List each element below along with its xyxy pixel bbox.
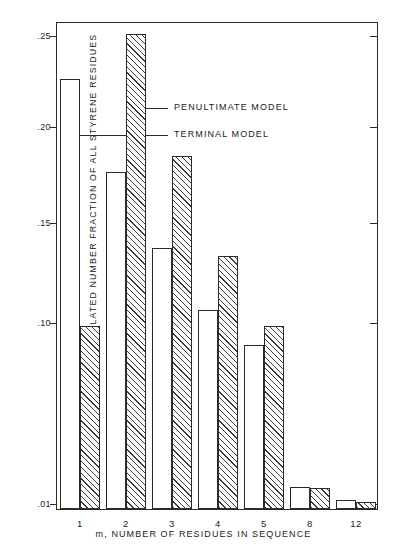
x-tick-label-1: 1 xyxy=(77,518,83,529)
y-tick-left-3 xyxy=(50,323,57,324)
y-tick-left-0 xyxy=(50,36,57,37)
y-tick-label-1: .20 xyxy=(23,122,51,132)
bar-penultimate-model-m5 xyxy=(264,326,284,509)
bar-penultimate-model-m3 xyxy=(172,156,192,509)
bar-penultimate-model-m12 xyxy=(356,502,376,509)
bar-terminal-model-m12 xyxy=(336,500,356,509)
y-tick-right-3 xyxy=(370,323,377,324)
x-tick-label-5: 5 xyxy=(261,518,267,529)
x-tick-label-3: 3 xyxy=(169,518,175,529)
plot-area: .25 .20 .15 .10 .01 12345812 PENULTIMATE… xyxy=(56,22,378,510)
y-tick-right-0 xyxy=(370,36,377,37)
bar-terminal-model-m2 xyxy=(106,172,126,509)
y-tick-label-2: .15 xyxy=(23,218,51,228)
x-tick-label-12: 12 xyxy=(350,518,362,529)
bar-penultimate-model-m8 xyxy=(310,488,330,509)
y-tick-left-1 xyxy=(50,127,57,128)
bar-terminal-model-m5 xyxy=(244,345,264,509)
penultimate-annotation-label: PENULTIMATE MODEL xyxy=(174,102,289,112)
y-tick-label-3: .10 xyxy=(23,318,51,328)
y-tick-label-0: .25 xyxy=(23,31,51,41)
y-tick-left-2 xyxy=(50,223,57,224)
x-tick-label-4: 4 xyxy=(215,518,221,529)
x-tick-label-2: 2 xyxy=(123,518,129,529)
terminal-annotation-label: TERMINAL MODEL xyxy=(174,129,269,139)
bar-terminal-model-m1 xyxy=(60,79,80,509)
y-tick-right-2 xyxy=(370,223,377,224)
x-axis-title: m, NUMBER OF RESIDUES IN SEQUENCE xyxy=(0,529,407,539)
bar-penultimate-model-m2 xyxy=(126,34,146,509)
figure-bar-chart: .25 .20 .15 .10 .01 12345812 PENULTIMATE… xyxy=(0,0,407,549)
y-tick-right-1 xyxy=(370,127,377,128)
y-tick-left-4 xyxy=(50,504,57,505)
y-axis-title: CALCULATED NUMBER FRACTION OF ALL STYREN… xyxy=(88,60,98,360)
x-tick-label-8: 8 xyxy=(307,518,313,529)
bar-terminal-model-m3 xyxy=(152,248,172,509)
bar-penultimate-model-m4 xyxy=(218,256,238,509)
y-tick-label-4: .01 xyxy=(23,499,51,509)
bar-penultimate-model-m1 xyxy=(80,326,100,509)
bar-terminal-model-m4 xyxy=(198,310,218,509)
bar-terminal-model-m8 xyxy=(290,487,310,509)
